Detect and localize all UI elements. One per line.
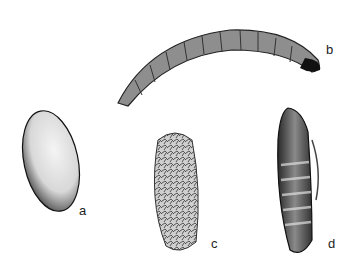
label-d: d	[328, 237, 335, 250]
label-b: b	[326, 43, 333, 56]
cocoon-figure	[154, 133, 198, 250]
pupa-figure	[278, 108, 319, 252]
illustration-canvas: a b c d	[0, 0, 356, 267]
label-c: c	[211, 237, 218, 250]
life-stages-drawing	[0, 0, 356, 267]
larva-figure	[118, 30, 320, 106]
label-a: a	[79, 204, 86, 217]
egg-figure	[14, 106, 88, 217]
